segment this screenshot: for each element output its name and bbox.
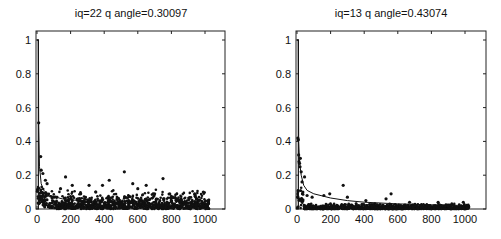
- y-tick-label: 0: [285, 203, 291, 215]
- x-tick-label: 800: [422, 213, 440, 225]
- scatter-plot-left: 00.20.40.60.8102004006008001000: [0, 0, 250, 239]
- y-tick-label: 0.6: [16, 102, 31, 114]
- y-tick-label: 0: [25, 203, 31, 215]
- fit-line: [297, 40, 469, 206]
- x-tick-label: 400: [95, 213, 113, 225]
- chart-panel-right: iq=13 q angle=0.43074 00.20.40.60.810200…: [260, 0, 501, 239]
- y-tick-label: 1: [25, 34, 31, 46]
- x-tick-label: 600: [129, 213, 147, 225]
- plot-frame: [36, 31, 225, 209]
- y-tick-label: 0.8: [276, 68, 291, 80]
- scatter-points: [296, 136, 470, 210]
- x-tick-label: 600: [389, 213, 407, 225]
- x-tick-label: 0: [34, 213, 40, 225]
- y-tick-label: 0.8: [16, 68, 31, 80]
- fit-line: [37, 40, 209, 206]
- scatter-points: [36, 121, 211, 210]
- chart-panel-left: iq=22 q angle=0.30097 00.20.40.60.810200…: [0, 0, 250, 239]
- y-tick-label: 0.6: [276, 102, 291, 114]
- y-tick-label: 0.2: [16, 169, 31, 181]
- x-tick-label: 0: [294, 213, 300, 225]
- scatter-plot-right: 00.20.40.60.8102004006008001000: [260, 0, 501, 239]
- plot-frame: [296, 31, 486, 209]
- x-tick-label: 400: [355, 213, 373, 225]
- x-tick-label: 800: [162, 213, 180, 225]
- x-tick-label: 200: [321, 213, 339, 225]
- y-tick-label: 1: [285, 34, 291, 46]
- y-tick-label: 0.2: [276, 169, 291, 181]
- y-tick-label: 0.4: [16, 135, 31, 147]
- x-tick-label: 200: [61, 213, 79, 225]
- y-tick-label: 0.4: [276, 135, 291, 147]
- x-tick-label: 1000: [453, 213, 477, 225]
- x-tick-label: 1000: [193, 213, 217, 225]
